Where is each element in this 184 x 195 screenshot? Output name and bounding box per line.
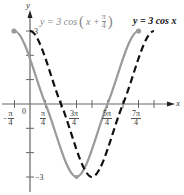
tick-label-3pi-over-4: 3π 4 xyxy=(69,110,79,127)
x-axis-label: x xyxy=(176,99,180,108)
min-point-dot xyxy=(75,175,79,179)
y-axis-arrow-icon xyxy=(28,10,33,18)
base-equation-label: y = 3 cos x xyxy=(133,16,176,26)
y-max-label: 3 xyxy=(34,28,38,36)
tick-label-7pi-over-4: 7π 4 xyxy=(131,110,141,127)
start-point-dot xyxy=(11,28,16,33)
y-min-label: −3 xyxy=(35,174,44,182)
tick-label-5pi-over-4: 5π 4 xyxy=(102,110,112,127)
tick-label-neg-pi-over-4: − π 4 xyxy=(3,110,14,127)
tick-label-pi-over-4: π 4 xyxy=(40,110,46,127)
x-axis-arrow-icon xyxy=(167,102,175,107)
origin-label: 0 xyxy=(22,108,26,116)
shifted-equation-label: y = 3 cos ( x + π 4 ) xyxy=(40,13,113,30)
end-point-dot xyxy=(136,28,141,33)
y-axis-label: y xyxy=(26,1,30,10)
